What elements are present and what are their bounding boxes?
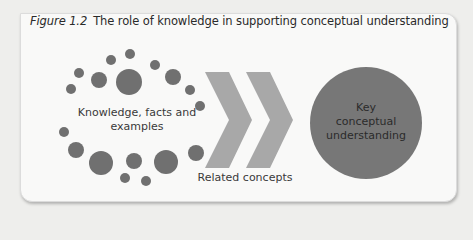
dot	[59, 127, 69, 137]
dot	[120, 173, 130, 183]
key-label-line: understanding	[316, 129, 416, 143]
related-concepts-label: Related concepts	[195, 171, 295, 185]
dot	[66, 84, 76, 94]
key-label-line: conceptual	[316, 115, 416, 129]
dot	[116, 69, 142, 95]
chevron-right-icon	[205, 72, 252, 168]
dot	[126, 153, 142, 169]
dot	[150, 60, 160, 70]
knowledge-label-line: Knowledge, facts and	[72, 106, 202, 120]
key-label-line: Key	[316, 101, 416, 115]
chevrons	[205, 72, 293, 168]
dot	[125, 49, 135, 59]
dot	[165, 69, 181, 85]
chevron-right-icon	[246, 72, 293, 168]
dot	[154, 150, 178, 174]
key-concept-label: Key conceptual understanding	[316, 101, 416, 143]
dot	[68, 142, 84, 158]
dot	[141, 176, 151, 186]
knowledge-label-line: examples	[72, 120, 202, 134]
dot	[89, 151, 113, 175]
dot	[185, 85, 195, 95]
dot	[188, 145, 204, 161]
dot	[74, 68, 84, 78]
dot	[106, 55, 116, 65]
knowledge-label: Knowledge, facts and examples	[72, 106, 202, 134]
dot	[91, 72, 107, 88]
